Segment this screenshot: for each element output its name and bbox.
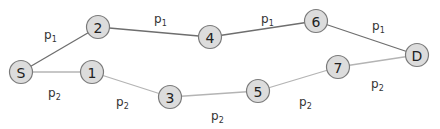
edge-label-subscript: 1 — [52, 35, 57, 44]
node-7: 7 — [327, 56, 350, 79]
edge-6-D — [316, 21, 417, 55]
edge-label-subscript: 2 — [307, 102, 312, 111]
edge-label-p1: p1 — [44, 28, 57, 44]
edge-label-p2: p2 — [48, 86, 61, 102]
edge-label-subscript: 2 — [379, 84, 384, 93]
edge-label-subscript: 1 — [380, 26, 385, 35]
node-label: 3 — [166, 90, 175, 106]
node-label: 4 — [206, 30, 215, 46]
node-label: 7 — [334, 60, 343, 76]
node-D: D — [406, 44, 429, 67]
node-label: 5 — [254, 84, 263, 100]
node-1: 1 — [81, 61, 104, 84]
edge-label-base: p — [261, 12, 269, 26]
node-2: 2 — [87, 16, 110, 39]
node-label: 6 — [312, 14, 321, 30]
edge-label-base: p — [372, 19, 380, 33]
node-label: 2 — [94, 20, 103, 36]
edge-label-subscript: 1 — [269, 19, 274, 28]
network-path-diagram: p1p1p1p1p2p2p2p2p2 S1234567D — [0, 0, 440, 129]
edge-label-base: p — [211, 109, 219, 123]
edge-2-4 — [98, 27, 210, 37]
edge-label-base: p — [116, 95, 124, 109]
edge-label-base: p — [48, 86, 56, 100]
node-6: 6 — [305, 10, 328, 33]
edge-label-p2: p2 — [211, 109, 224, 125]
edge-label-base: p — [299, 95, 307, 109]
edge-label-p2: p2 — [116, 95, 129, 111]
edge-label-base: p — [371, 77, 379, 91]
edge-label-base: p — [44, 28, 52, 42]
node-3: 3 — [159, 86, 182, 109]
edge-label-p1: p1 — [154, 12, 167, 28]
edge-5-7 — [258, 67, 338, 91]
edge-label-p1: p1 — [372, 19, 385, 35]
edge-label-p1: p1 — [261, 12, 274, 28]
edge-1-3 — [92, 72, 170, 97]
edge-label-subscript: 1 — [162, 19, 167, 28]
edge-label-p2: p2 — [371, 77, 384, 93]
node-4: 4 — [199, 26, 222, 49]
edge-label-p2: p2 — [299, 95, 312, 111]
edge-label-subscript: 2 — [219, 116, 224, 125]
node-label: S — [17, 65, 26, 81]
node-S: S — [10, 61, 33, 84]
edge-label-subscript: 2 — [56, 93, 61, 102]
node-label: D — [412, 48, 423, 64]
node-label: 1 — [88, 65, 97, 81]
node-5: 5 — [247, 80, 270, 103]
edge-label-base: p — [154, 12, 162, 26]
edge-3-5 — [170, 91, 258, 97]
edge-label-subscript: 2 — [124, 102, 129, 111]
